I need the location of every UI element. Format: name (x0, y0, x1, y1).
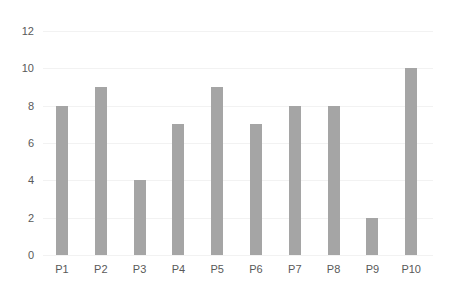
x-tick-label: P7 (275, 263, 315, 275)
bar-chart: 024681012P1P2P3P4P5P6P7P8P9P10 (0, 0, 461, 301)
bar-p8 (328, 106, 340, 255)
bar-p2 (95, 87, 107, 255)
y-tick-label: 8 (0, 100, 34, 112)
x-tick-label: P3 (120, 263, 160, 275)
bar-p9 (366, 218, 378, 255)
bar-p6 (250, 124, 262, 255)
bar-p5 (211, 87, 223, 255)
y-tick-label: 12 (0, 25, 34, 37)
x-tick-label: P6 (236, 263, 276, 275)
bar-p7 (289, 106, 301, 255)
y-tick-label: 0 (0, 249, 34, 261)
y-tick-label: 6 (0, 137, 34, 149)
gridline (43, 68, 433, 69)
x-tick-label: P9 (352, 263, 392, 275)
x-tick-label: P4 (158, 263, 198, 275)
y-tick-label: 10 (0, 62, 34, 74)
gridline (43, 31, 433, 32)
y-tick-label: 4 (0, 174, 34, 186)
bar-p10 (405, 68, 417, 255)
x-tick-label: P2 (81, 263, 121, 275)
bar-p4 (172, 124, 184, 255)
bar-p1 (56, 106, 68, 255)
x-tick-label: P10 (391, 263, 431, 275)
x-tick-label: P1 (42, 263, 82, 275)
bar-p3 (134, 180, 146, 255)
gridline (43, 255, 433, 256)
x-tick-label: P8 (314, 263, 354, 275)
x-tick-label: P5 (197, 263, 237, 275)
y-tick-label: 2 (0, 212, 34, 224)
